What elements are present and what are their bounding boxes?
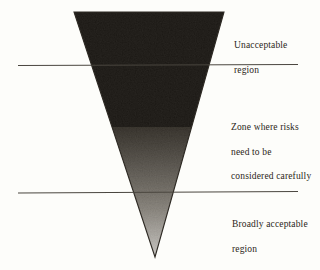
triangle-paper-texture xyxy=(60,8,240,264)
figure-canvas: Unacceptable region Zone where risks nee… xyxy=(0,0,320,270)
label-unacceptable-line-1: Unacceptable xyxy=(234,39,318,51)
label-alarp-line-1: Zone where risks xyxy=(231,121,320,133)
label-unacceptable-region: Unacceptable region xyxy=(234,27,318,88)
triangle-fill-group xyxy=(60,8,240,264)
label-alarp-line-2: need to be xyxy=(231,146,320,158)
label-broadly-line-2: region xyxy=(232,243,320,255)
label-unacceptable-line-2: region xyxy=(234,64,318,76)
label-broadly-acceptable-region: Broadly acceptable region xyxy=(232,206,320,267)
label-alarp-zone: Zone where risks need to be considered c… xyxy=(231,109,320,194)
label-broadly-line-1: Broadly acceptable xyxy=(232,218,320,230)
label-alarp-line-3: considered carefully xyxy=(231,170,320,182)
